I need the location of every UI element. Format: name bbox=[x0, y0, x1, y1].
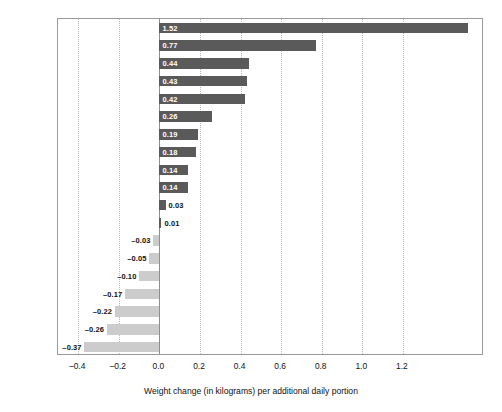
bar-value-label: 1.52 bbox=[162, 25, 177, 33]
bar-row: 0.03 bbox=[58, 200, 482, 211]
bar-row: 0.43 bbox=[58, 76, 482, 87]
x-tick-label: 0.2 bbox=[193, 362, 205, 370]
bar bbox=[159, 200, 165, 211]
bar-value-label: –0.37 bbox=[62, 344, 81, 352]
bar-value-label: 0.18 bbox=[162, 149, 177, 157]
bar-value-label: –0.26 bbox=[85, 326, 104, 334]
bar-row: 0.77 bbox=[58, 40, 482, 51]
bar-value-label: 0.03 bbox=[169, 202, 184, 210]
bar-row: 0.26 bbox=[58, 111, 482, 122]
bar-value-label: 0.43 bbox=[162, 78, 177, 86]
bar bbox=[159, 218, 161, 229]
bar-value-label: –0.22 bbox=[93, 308, 112, 316]
x-tick-label: 1.2 bbox=[396, 362, 408, 370]
bar-value-label: –0.10 bbox=[117, 273, 136, 281]
bar-value-label: 0.14 bbox=[162, 184, 177, 192]
bar-row: –0.22 bbox=[58, 306, 482, 317]
bar-row: 0.01 bbox=[58, 218, 482, 229]
bar-row: 1.52 bbox=[58, 23, 482, 34]
bar-value-label: 0.01 bbox=[164, 220, 179, 228]
bar-row: –0.26 bbox=[58, 324, 482, 335]
bar-row: 0.14 bbox=[58, 182, 482, 193]
bar-row: 0.14 bbox=[58, 165, 482, 176]
bar-row: –0.03 bbox=[58, 235, 482, 246]
bar-series: 1.520.770.440.430.420.260.190.180.140.14… bbox=[58, 19, 482, 354]
plot-area: 1.520.770.440.430.420.260.190.180.140.14… bbox=[57, 18, 483, 355]
bar-row: –0.10 bbox=[58, 271, 482, 282]
x-tick-label: 0.8 bbox=[315, 362, 327, 370]
bar-value-label: –0.05 bbox=[127, 255, 146, 263]
bar bbox=[149, 253, 159, 264]
bar-row: 0.42 bbox=[58, 94, 482, 105]
bar bbox=[159, 23, 467, 34]
bar-row: –0.17 bbox=[58, 289, 482, 300]
bar-row: –0.05 bbox=[58, 253, 482, 264]
bar bbox=[139, 271, 159, 282]
bar bbox=[107, 324, 160, 335]
bar-row: –0.37 bbox=[58, 342, 482, 353]
bar-chart: French friesPotato chipsSoft drinks (col… bbox=[0, 0, 502, 412]
bar bbox=[115, 306, 160, 317]
bar-value-label: 0.44 bbox=[162, 60, 177, 68]
bar-value-label: 0.26 bbox=[162, 113, 177, 121]
bar bbox=[125, 289, 159, 300]
bar-row: 0.18 bbox=[58, 147, 482, 158]
bar bbox=[153, 235, 159, 246]
bar-value-label: –0.03 bbox=[131, 237, 150, 245]
bar bbox=[159, 40, 315, 51]
x-tick-label: –0.4 bbox=[69, 362, 85, 370]
bar-value-label: 0.19 bbox=[162, 131, 177, 139]
x-axis-ticks: –0.4–0.20.00.20.40.60.81.01.2 bbox=[0, 362, 502, 376]
bar-value-label: –0.17 bbox=[103, 291, 122, 299]
x-tick-label: 0.6 bbox=[274, 362, 286, 370]
x-tick-label: 0.4 bbox=[234, 362, 246, 370]
x-tick-label: –0.2 bbox=[110, 362, 126, 370]
bar-row: 0.44 bbox=[58, 58, 482, 69]
bar-value-label: 0.42 bbox=[162, 96, 177, 104]
x-axis-title: Weight change (in kilograms) per additio… bbox=[0, 386, 502, 396]
bar-row: 0.19 bbox=[58, 129, 482, 140]
bar-value-label: 0.14 bbox=[162, 167, 177, 175]
x-tick-label: 1.0 bbox=[355, 362, 367, 370]
bar bbox=[84, 342, 159, 353]
x-tick-label: 0.0 bbox=[153, 362, 165, 370]
bar-value-label: 0.77 bbox=[162, 42, 177, 50]
